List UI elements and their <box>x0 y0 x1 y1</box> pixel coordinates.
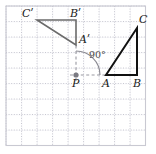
label-a-prime: Aʹ <box>79 34 90 45</box>
label-c-prime: Cʹ <box>22 8 33 19</box>
label-b: B <box>133 78 141 89</box>
label-rotation-angle: 90° <box>89 50 106 60</box>
label-a: A <box>102 78 110 89</box>
label-c: C <box>139 14 147 25</box>
label-b-prime: Bʹ <box>70 8 81 19</box>
rotation-diagram: Cʹ Bʹ Aʹ C B A P 90° <box>0 0 156 154</box>
label-p: P <box>72 78 79 89</box>
